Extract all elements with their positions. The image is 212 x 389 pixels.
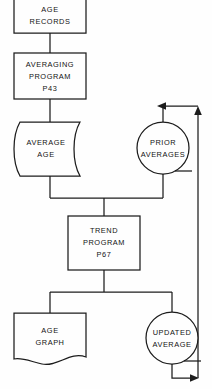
- node-averaging-program: AVERAGING PROGRAM P43: [14, 53, 86, 99]
- average-age-label-line1: AVERAGE: [26, 138, 65, 147]
- node-age-graph: AGE GRAPH: [14, 313, 86, 364]
- averaging-program-label-line2: PROGRAM: [29, 72, 71, 81]
- prior-averages-label-line2: AVERAGES: [141, 150, 186, 159]
- updated-average-label-line2: AVERAGE: [152, 340, 191, 349]
- age-graph-label-line2: GRAPH: [35, 338, 64, 347]
- node-updated-average: UPDATED AVERAGE: [146, 312, 201, 364]
- flowchart-canvas: AGE RECORDS AVERAGING PROGRAM P43 AVERAG…: [0, 0, 212, 389]
- flowchart-diagram: AGE RECORDS AVERAGING PROGRAM P43 AVERAG…: [0, 0, 212, 389]
- averaging-program-label-line3: P43: [43, 84, 58, 93]
- average-age-label-line2: AGE: [37, 150, 54, 159]
- averaging-program-label-line1: AVERAGING: [26, 60, 74, 69]
- edge-updated-average-feedback-out: [172, 364, 193, 378]
- arrowhead-feedback-left: [157, 102, 166, 110]
- updated-average-label-line1: UPDATED: [153, 328, 192, 337]
- node-average-age: AVERAGE AGE: [14, 122, 80, 176]
- trend-program-label-line3: P67: [97, 250, 112, 259]
- trend-program-label-line2: PROGRAM: [83, 238, 125, 247]
- age-records-label-line1: AGE: [41, 5, 58, 14]
- arrowhead-feedback-up: [194, 106, 202, 115]
- node-prior-averages: PRIOR AVERAGES: [137, 122, 192, 174]
- age-graph-label-line1: AGE: [41, 326, 58, 335]
- prior-averages-label-line1: PRIOR: [150, 138, 176, 147]
- node-trend-program: TREND PROGRAM P67: [68, 216, 140, 270]
- node-age-records: AGE RECORDS: [14, 0, 86, 33]
- prior-averages-shape: [137, 122, 189, 174]
- trend-program-label-line1: TREND: [90, 226, 118, 235]
- age-records-label-line2: RECORDS: [30, 17, 71, 26]
- updated-average-shape: [146, 312, 198, 364]
